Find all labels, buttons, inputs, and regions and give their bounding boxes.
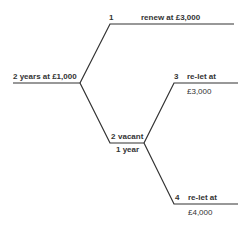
- node-4-number: 4: [175, 194, 179, 202]
- node-2-label: vacant: [118, 133, 143, 141]
- node-3-sublabel: £3,000: [187, 88, 211, 96]
- node-2-number: 2: [111, 133, 115, 141]
- node-3-label: re-let at: [187, 73, 216, 81]
- node-1-label: renew at £3,000: [141, 14, 200, 22]
- node-4-sublabel: £4,000: [188, 209, 212, 217]
- node-3-number: 3: [174, 73, 178, 81]
- node-4-label: re-let at: [188, 194, 217, 202]
- node-1-number: 1: [109, 14, 113, 22]
- node-2-sublabel: 1 year: [116, 146, 139, 154]
- root-label: 2 years at £1,000: [13, 73, 77, 81]
